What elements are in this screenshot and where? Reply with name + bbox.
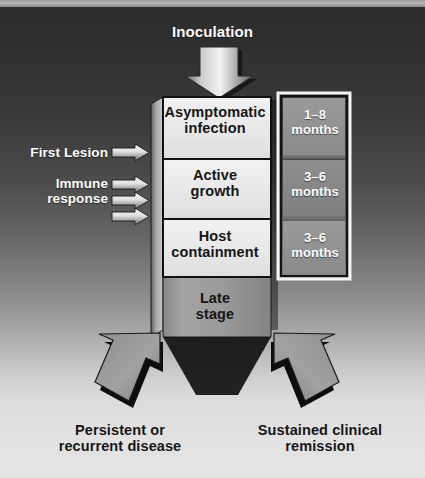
duration-label-host-containment: 3–6 months <box>284 231 346 260</box>
right-arrow-icon <box>112 144 149 161</box>
outcome-label-right: Sustained clinical remission <box>232 422 408 454</box>
duration-label-active-growth: 3–6 months <box>284 170 346 199</box>
diagram-canvas: Inoculation Asymptomatic infection Activ… <box>0 0 425 478</box>
right-arrow-icon <box>112 192 149 209</box>
right-arrow-icon <box>112 176 149 193</box>
first-lesion-arrow-group <box>112 144 149 161</box>
inoculation-label: Inoculation <box>0 24 425 41</box>
outcome-label-left: Persistent or recurrent disease <box>40 422 200 454</box>
right-arrow-icon <box>112 208 149 225</box>
stage-label-late: Late stage <box>163 290 267 322</box>
duration-label-asymptomatic: 1–8 months <box>284 108 346 137</box>
immune-response-arrow-group <box>112 176 149 225</box>
first-lesion-label: First Lesion <box>10 145 108 160</box>
down-arrow-icon <box>185 47 257 101</box>
stage-label-asymptomatic: Asymptomatic infection <box>163 104 267 136</box>
stage-label-host-containment: Host containment <box>163 228 267 260</box>
trunk-bifurcation-notch <box>163 337 271 403</box>
immune-response-label: Immune response <box>10 176 108 206</box>
stage-label-active-growth: Active growth <box>163 167 267 199</box>
